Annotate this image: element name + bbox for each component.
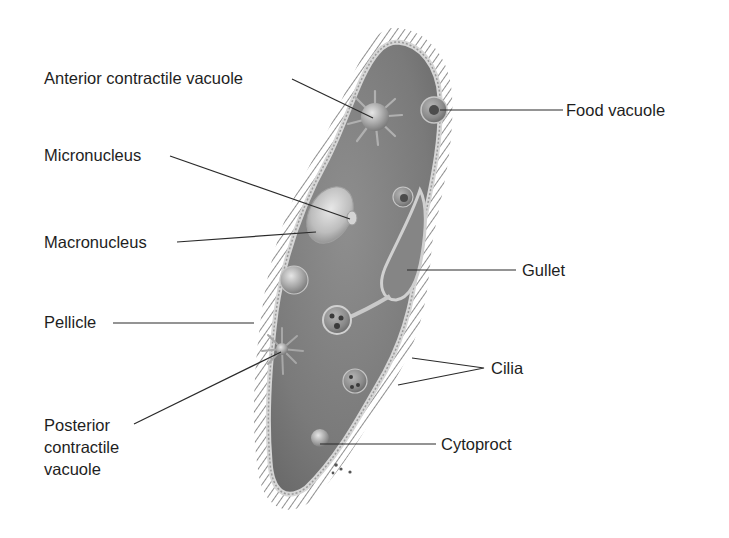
label-cilia: Cilia bbox=[491, 358, 523, 378]
food-vacuole-forming bbox=[323, 306, 351, 334]
label-micronucleus: Micronucleus bbox=[44, 145, 141, 165]
label-food-vacuole: Food vacuole bbox=[566, 100, 665, 120]
label-anterior-contractile-vacuole: Anterior contractile vacuole bbox=[44, 68, 243, 88]
label-pellicle: Pellicle bbox=[44, 312, 96, 332]
label-macronucleus: Macronucleus bbox=[44, 232, 147, 252]
label-cytoproct: Cytoproct bbox=[441, 434, 512, 454]
label-posterior-contractile-vacuole: Posterior contractile vacuole bbox=[44, 414, 119, 480]
paramecium-diagram: Anterior contractile vacuole Micronucleu… bbox=[0, 0, 729, 538]
food-vacuole-3 bbox=[280, 266, 308, 294]
food-vacuole-4 bbox=[343, 369, 367, 393]
label-gullet: Gullet bbox=[522, 260, 565, 280]
